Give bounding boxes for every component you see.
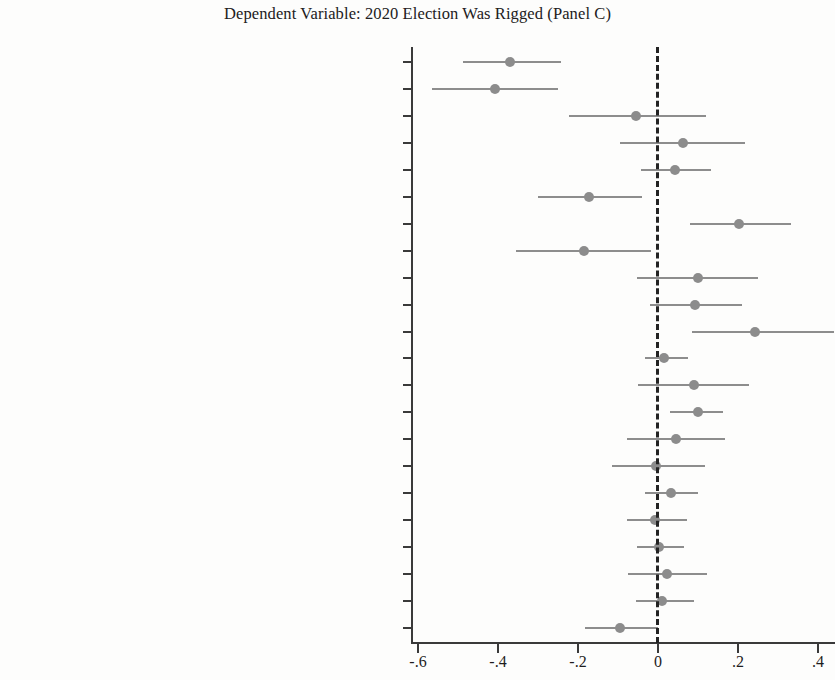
y-axis-tick	[403, 88, 412, 90]
y-axis-tick	[403, 573, 412, 575]
x-axis-tick-label: .4	[788, 653, 835, 671]
y-axis-tick	[403, 169, 412, 171]
y-axis-tick	[403, 250, 412, 252]
y-axis-tick	[403, 600, 412, 602]
zero-reference-line	[656, 47, 659, 643]
y-axis-tick	[403, 519, 412, 521]
x-axis-tick-label: -.2	[548, 653, 608, 671]
y-axis-tick	[403, 331, 412, 333]
point-estimate-marker	[659, 353, 669, 363]
point-estimate-marker	[689, 380, 699, 390]
point-estimate-marker	[693, 273, 703, 283]
point-estimate-marker	[662, 569, 672, 579]
y-axis-tick	[403, 277, 412, 279]
x-axis-tick	[737, 643, 739, 653]
point-estimate-marker	[690, 300, 700, 310]
y-axis-tick	[403, 546, 412, 548]
x-axis-tick-label: -.6	[388, 653, 448, 671]
x-axis-spine	[411, 642, 835, 644]
y-axis-tick	[403, 61, 412, 63]
x-axis-tick-label: 0	[628, 653, 688, 671]
chart-title: Dependent Variable: 2020 Election Was Ri…	[0, 4, 835, 24]
y-axis-tick	[403, 384, 412, 386]
y-axis-tick	[403, 627, 412, 629]
point-estimate-marker	[631, 111, 641, 121]
point-estimate-marker	[693, 407, 703, 417]
x-axis-tick-label: .2	[708, 653, 768, 671]
point-estimate-marker	[671, 434, 681, 444]
y-axis-tick	[403, 357, 412, 359]
confidence-interval-line	[692, 331, 834, 333]
point-estimate-marker	[666, 488, 676, 498]
y-axis-spine	[411, 47, 413, 644]
y-axis-tick	[403, 304, 412, 306]
point-estimate-marker	[490, 84, 500, 94]
point-estimate-marker	[505, 57, 515, 67]
x-axis-tick	[657, 643, 659, 653]
y-axis-tick	[403, 142, 412, 144]
x-axis-tick-label: -.4	[468, 653, 528, 671]
x-axis-tick	[577, 643, 579, 653]
x-axis-tick	[417, 643, 419, 653]
y-axis-tick	[403, 223, 412, 225]
coefficient-plot-figure: Dependent Variable: 2020 Election Was Ri…	[0, 0, 835, 680]
y-axis-tick	[403, 465, 412, 467]
x-axis-tick	[497, 643, 499, 653]
point-estimate-marker	[670, 165, 680, 175]
point-estimate-marker	[750, 327, 760, 337]
y-axis-tick	[403, 492, 412, 494]
y-axis-tick	[403, 196, 412, 198]
point-estimate-marker	[579, 246, 589, 256]
y-axis-tick	[403, 411, 412, 413]
y-axis-tick	[403, 115, 412, 117]
point-estimate-marker	[615, 623, 625, 633]
point-estimate-marker	[584, 192, 594, 202]
y-axis-tick	[403, 438, 412, 440]
point-estimate-marker	[734, 219, 744, 229]
x-axis-tick	[817, 643, 819, 653]
point-estimate-marker	[678, 138, 688, 148]
